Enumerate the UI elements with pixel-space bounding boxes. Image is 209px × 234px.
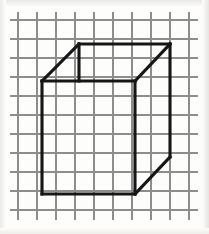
paper-background <box>0 0 209 234</box>
figure-canvas <box>0 0 209 234</box>
cube-figure-svg <box>0 0 209 234</box>
